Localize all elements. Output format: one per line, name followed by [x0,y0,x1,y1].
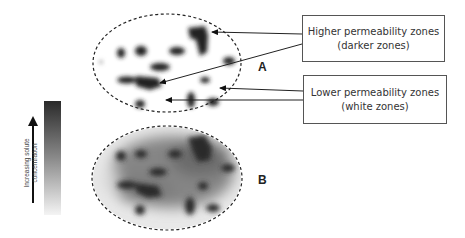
label-a: A [258,60,267,74]
ellipse-b-fill [90,120,250,238]
arrow-lower-1 [220,88,303,91]
legend-label: Increasing solute concentration [23,128,39,198]
callout-lower-line1: Lower permeability zones [311,86,439,100]
label-b: B [258,173,267,187]
ellipse-a-outline [93,14,241,112]
callout-lower-line2: (white zones) [341,100,408,114]
callout-higher-line1: Higher permeability zones [308,25,440,39]
legend-label-line1: Increasing solute [23,128,31,198]
callout-higher-line2: (darker zones) [337,39,409,53]
arrow-up-head-icon [28,116,38,126]
callout-lower-permeability: Lower permeability zones (white zones) [303,75,447,124]
callout-higher-permeability: Higher permeability zones (darker zones) [302,15,445,62]
ellipse-a-blobs [100,26,236,108]
concentration-gradient-bar [44,101,61,215]
legend-label-line2: concentration [31,128,39,198]
